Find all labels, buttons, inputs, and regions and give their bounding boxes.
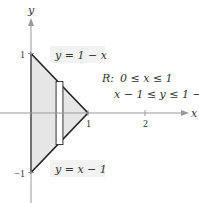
x-tick-label: 1: [86, 118, 91, 129]
region-diagram: x y 121−1 y = 1 − x y = x − 1 R: 0 ≤ x ≤…: [0, 0, 199, 203]
x-axis-arrow-icon: [181, 110, 189, 116]
y-axis-arrow-icon: [28, 18, 34, 26]
y-axis-label: y: [27, 4, 35, 17]
region-name: R:: [101, 72, 114, 85]
region-y-bounds: x − 1 ≤ y ≤ 1 − x: [114, 88, 199, 101]
upper-curve-label: y = 1 − x: [54, 49, 108, 62]
lower-curve-label: y = x − 1: [54, 163, 107, 176]
y-tick-label: 1: [20, 49, 25, 60]
x-axis-label: x: [191, 107, 198, 120]
x-tick-label: 2: [143, 118, 148, 129]
region-x-bounds: 0 ≤ x ≤ 1: [120, 72, 173, 85]
y-tick-label: −1: [14, 168, 25, 179]
